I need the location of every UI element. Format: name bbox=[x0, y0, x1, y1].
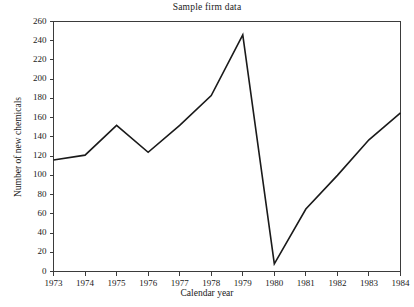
x-tick-label: 1984 bbox=[381, 279, 414, 288]
y-axis-tick-marks bbox=[50, 22, 54, 272]
y-tick-label: 160 bbox=[6, 113, 47, 122]
y-tick-label: 80 bbox=[6, 190, 47, 199]
y-tick-label: 200 bbox=[6, 74, 47, 83]
data-series-line bbox=[54, 35, 401, 264]
y-tick-label: 100 bbox=[6, 170, 47, 179]
chart-figure: Sample firm data Number of new chemicals… bbox=[0, 0, 414, 307]
axis-frame bbox=[54, 22, 401, 272]
y-tick-label: 40 bbox=[6, 228, 47, 237]
y-tick-label: 260 bbox=[6, 17, 47, 26]
y-tick-label: 240 bbox=[6, 36, 47, 45]
plot-area bbox=[0, 0, 414, 307]
y-tick-label: 60 bbox=[6, 209, 47, 218]
y-tick-label: 220 bbox=[6, 55, 47, 64]
y-tick-label: 20 bbox=[6, 247, 47, 256]
x-axis-tick-marks bbox=[54, 272, 401, 276]
y-tick-label: 180 bbox=[6, 93, 47, 102]
y-tick-label: 0 bbox=[6, 267, 47, 276]
y-tick-label: 120 bbox=[6, 151, 47, 160]
y-tick-label: 140 bbox=[6, 132, 47, 141]
